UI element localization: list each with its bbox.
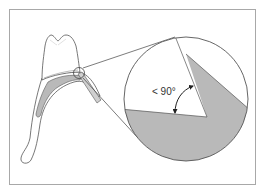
angle-label: < 90° [152,86,176,97]
dental-diagram: < 90° [0,0,265,191]
